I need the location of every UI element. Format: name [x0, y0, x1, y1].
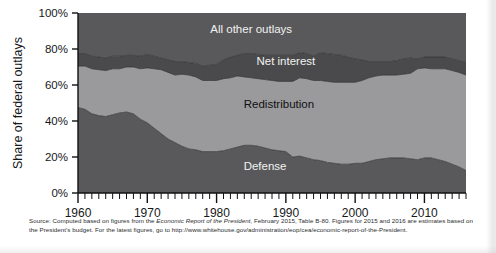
- source-italic-title: Economic Report of the President: [156, 217, 250, 224]
- y-axis-ticks-group: 0%20%40%60%80%100%: [39, 7, 78, 199]
- series-annotation-all-other-outlays: All other outlays: [210, 23, 292, 35]
- figure-container: 0%20%40%60%80%100% 196019701980199020002…: [0, 0, 496, 253]
- series-annotation-defense: Defense: [244, 160, 287, 172]
- y-tick-label: 20%: [45, 151, 68, 163]
- y-tick-label: 60%: [45, 79, 68, 91]
- series-annotation-redistribution: Redistribution: [244, 98, 314, 110]
- y-tick-label: 0%: [51, 187, 68, 199]
- series-annotation-net-interest: Net interest: [256, 55, 316, 67]
- y-tick-label: 40%: [45, 115, 68, 127]
- source-note: Source: Computed based on figures from t…: [29, 216, 477, 235]
- y-tick-label: 80%: [45, 43, 68, 55]
- y-axis-title: Share of federal outlays: [11, 37, 25, 169]
- y-tick-label: 100%: [39, 7, 68, 19]
